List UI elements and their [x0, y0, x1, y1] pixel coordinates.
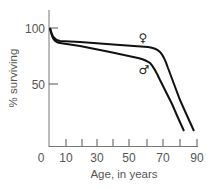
x-tick-label-90: 90: [190, 151, 204, 165]
female-survival-curve: [50, 28, 194, 131]
male-symbol-icon: ♂: [139, 63, 150, 77]
female-symbol-icon: ♀: [139, 31, 148, 45]
x-axis-title: Age, in years: [90, 168, 157, 180]
y-axis-title: % surviving: [7, 49, 19, 108]
x-tick-label-10: 10: [59, 151, 73, 165]
x-tick-label-50: 50: [122, 151, 136, 165]
male-survival-curve: [50, 28, 184, 131]
x-tick-label-0: 0: [38, 151, 45, 165]
x-tick-label-30: 30: [90, 151, 104, 165]
y-tick-label-50: 50: [32, 78, 46, 92]
y-tick-label-100: 100: [25, 22, 45, 36]
x-ticks: [66, 139, 197, 146]
x-tick-label-70: 70: [156, 151, 170, 165]
survivorship-chart: 100 50 0 10 30 50 70 90 Age, in years % …: [0, 0, 216, 189]
